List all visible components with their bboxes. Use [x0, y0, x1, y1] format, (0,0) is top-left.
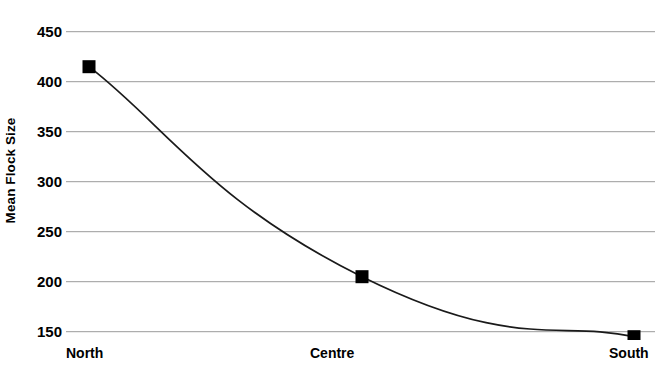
gridlines-group: [66, 32, 655, 332]
x-tick-label-south: South: [609, 345, 649, 361]
y-tick-label-250: 250: [20, 224, 62, 239]
y-tick-label-200: 200: [20, 274, 62, 289]
x-axis-tick-labels: North Centre South: [0, 340, 665, 375]
plot-area: [66, 0, 655, 340]
y-tick-label-150: 150: [20, 324, 62, 339]
y-tick-label-300: 300: [20, 174, 62, 189]
x-tick-label-north: North: [66, 345, 103, 361]
y-tick-label-400: 400: [20, 74, 62, 89]
data-point-marker-south: [628, 330, 641, 340]
y-axis-title: Mean Flock Size: [0, 0, 22, 340]
x-tick-label-centre: Centre: [310, 345, 354, 361]
data-line-path: [89, 67, 634, 337]
y-axis-title-label: Mean Flock Size: [4, 117, 19, 223]
data-series-group: [83, 60, 641, 340]
plot-svg: [66, 0, 655, 340]
y-tick-label-350: 350: [20, 124, 62, 139]
data-point-marker-centre: [356, 270, 369, 283]
chart-container: Mean Flock Size 450 400 350 300 250 200 …: [0, 0, 665, 375]
y-tick-label-450: 450: [20, 24, 62, 39]
data-point-marker-north: [83, 60, 96, 73]
y-axis-tick-labels: 450 400 350 300 250 200 150: [20, 0, 62, 340]
